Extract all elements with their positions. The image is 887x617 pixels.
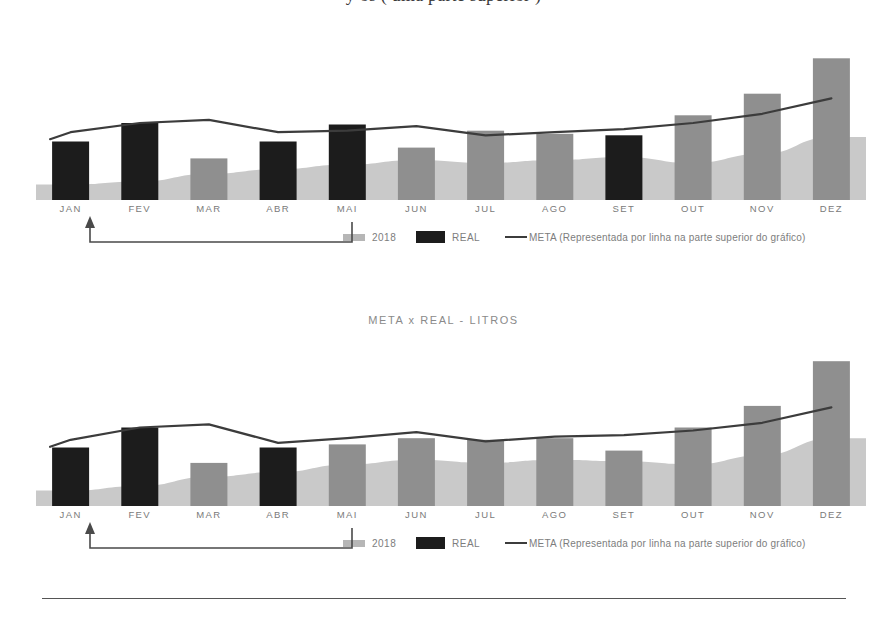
bar-set <box>605 135 642 200</box>
bar-rect-jun <box>398 148 435 200</box>
x-axis-label-jan: JAN <box>36 509 105 520</box>
bar-rect-out <box>675 428 712 507</box>
bar-rect-mar <box>190 463 227 506</box>
bar-mar <box>190 158 227 200</box>
plot-area-1 <box>36 38 866 200</box>
callout-arrowhead-icon <box>85 216 95 228</box>
bar-jul <box>467 440 504 506</box>
x-axis-label-mai: MAI <box>313 203 382 214</box>
x-axis-label-jun: JUN <box>382 509 451 520</box>
x-axis-label-mar: MAR <box>174 509 243 520</box>
footer-divider <box>42 598 846 599</box>
bar-rect-set <box>605 451 642 506</box>
x-axis-label-dez: DEZ <box>797 509 866 520</box>
bar-rect-dez <box>813 58 850 200</box>
bar-mai <box>329 125 366 201</box>
bar-mar <box>190 463 227 506</box>
x-axis-label-jul: JUL <box>451 509 520 520</box>
x-axis-label-fev: FEV <box>105 509 174 520</box>
x-axis-label-ago: AGO <box>520 509 589 520</box>
area-2018-chart-2 <box>36 438 866 506</box>
area-2018-chart-1 <box>36 137 866 200</box>
x-axis-label-out: OUT <box>659 509 728 520</box>
bar-rect-set <box>605 135 642 200</box>
cropped-heading-text: y os ( uma parte superior ) <box>0 0 887 6</box>
callout-path <box>90 222 352 242</box>
x-axis-label-mai: MAI <box>313 509 382 520</box>
callout-bracket-1 <box>0 214 887 248</box>
bar-abr <box>260 142 297 201</box>
x-axis-label-ago: AGO <box>520 203 589 214</box>
bar-rect-fev <box>121 123 158 200</box>
x-axis-label-fev: FEV <box>105 203 174 214</box>
x-axis-label-jun: JUN <box>382 203 451 214</box>
bar-out <box>675 115 712 200</box>
meta-line-chart-2 <box>50 407 831 446</box>
chart-canvas-1 <box>36 38 866 200</box>
bar-rect-mai <box>329 444 366 506</box>
callout-path <box>90 528 352 548</box>
bar-dez <box>813 58 850 200</box>
bar-nov <box>744 94 781 200</box>
bar-rect-out <box>675 115 712 200</box>
bar-rect-ago <box>536 134 573 200</box>
x-axis-label-jan: JAN <box>36 203 105 214</box>
x-axis-label-jul: JUL <box>451 203 520 214</box>
bar-rect-abr <box>260 142 297 201</box>
bar-rect-jul <box>467 131 504 200</box>
chart-canvas-2 <box>36 344 866 506</box>
bar-rect-fev <box>121 428 158 507</box>
bar-abr <box>260 448 297 507</box>
bar-jun <box>398 148 435 200</box>
x-axis-label-nov: NOV <box>728 509 797 520</box>
x-axis-label-nov: NOV <box>728 203 797 214</box>
x-axis-label-mar: MAR <box>174 203 243 214</box>
bar-ago <box>536 134 573 200</box>
callout-bracket-2 <box>0 520 887 554</box>
bar-set <box>605 451 642 506</box>
bar-mai <box>329 444 366 506</box>
bar-rect-jan <box>52 448 89 507</box>
x-axis-label-out: OUT <box>659 203 728 214</box>
x-axis-label-set: SET <box>589 203 658 214</box>
plot-area-2 <box>36 344 866 506</box>
bar-fev <box>121 428 158 507</box>
bar-dez <box>813 361 850 506</box>
bar-rect-jul <box>467 440 504 506</box>
bar-out <box>675 428 712 507</box>
x-axis-label-set: SET <box>589 509 658 520</box>
meta-line-chart-1 <box>50 98 831 139</box>
bar-rect-jun <box>398 438 435 506</box>
bar-jan <box>52 142 89 201</box>
bar-rect-nov <box>744 94 781 200</box>
bar-fev <box>121 123 158 200</box>
bar-jun <box>398 438 435 506</box>
cropped-page-heading: y os ( uma parte superior ) <box>0 0 887 14</box>
bar-rect-mar <box>190 158 227 200</box>
callout-arrowhead-icon <box>85 522 95 534</box>
bar-rect-mai <box>329 125 366 201</box>
bar-rect-jan <box>52 142 89 201</box>
bar-rect-abr <box>260 448 297 507</box>
bar-ago <box>536 438 573 506</box>
x-axis-label-dez: DEZ <box>797 203 866 214</box>
bar-jan <box>52 448 89 507</box>
x-axis-label-abr: ABR <box>244 203 313 214</box>
bar-jul <box>467 131 504 200</box>
section-title: META x REAL - LITROS <box>0 314 887 326</box>
bar-rect-dez <box>813 361 850 506</box>
bar-rect-ago <box>536 438 573 506</box>
x-axis-label-abr: ABR <box>244 509 313 520</box>
